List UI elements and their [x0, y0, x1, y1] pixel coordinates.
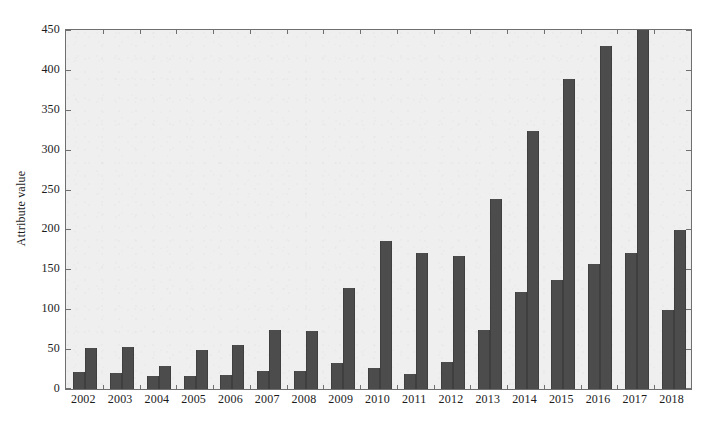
- y-axis-tick-label: 250: [30, 181, 60, 196]
- bar: [416, 253, 428, 389]
- x-axis-tick: [434, 385, 435, 389]
- bar: [232, 345, 244, 389]
- y-axis-tick-label: 100: [30, 301, 60, 316]
- x-axis-tick-label: 2007: [255, 392, 280, 407]
- bar: [625, 253, 637, 389]
- y-axis-tick-label: 50: [30, 341, 60, 356]
- y-axis-tick: [686, 30, 691, 31]
- y-axis-tick: [66, 269, 71, 270]
- x-axis-tick: [654, 385, 655, 389]
- x-axis-tick-label: 2004: [145, 392, 170, 407]
- x-axis-tick: [287, 30, 288, 34]
- bar: [85, 348, 97, 389]
- y-axis-tick-label: 450: [30, 22, 60, 37]
- bar: [441, 362, 453, 389]
- y-axis-tick: [66, 70, 71, 71]
- y-axis-tick: [66, 349, 71, 350]
- x-axis-tick-label: 2015: [549, 392, 574, 407]
- x-axis-tick-label: 2006: [218, 392, 243, 407]
- bar-chart-figure: Attribute value 050100150200250300350400…: [0, 0, 713, 427]
- y-axis-tick-label: 400: [30, 61, 60, 76]
- x-axis-tick: [103, 385, 104, 389]
- bar: [588, 264, 600, 389]
- bar: [306, 331, 318, 389]
- x-axis-tick: [213, 30, 214, 34]
- y-axis-tick: [66, 110, 71, 111]
- x-axis-tick: [507, 385, 508, 389]
- x-axis-tick: [617, 385, 618, 389]
- x-axis-tick-label: 2017: [622, 392, 647, 407]
- bar: [343, 288, 355, 389]
- x-axis-tick: [507, 30, 508, 34]
- y-axis-tick-labels: 050100150200250300350400450: [28, 0, 60, 427]
- bar: [122, 347, 134, 389]
- x-axis-tick: [360, 30, 361, 34]
- x-axis-tick: [434, 30, 435, 34]
- y-axis-tick: [686, 190, 691, 191]
- y-axis-tick: [66, 309, 71, 310]
- bar: [159, 366, 171, 389]
- y-axis-tick-label: 350: [30, 101, 60, 116]
- bar: [331, 363, 343, 389]
- y-axis-tick: [686, 269, 691, 270]
- x-axis-tick: [581, 385, 582, 389]
- x-axis-tick-label: 2016: [586, 392, 611, 407]
- bar: [196, 350, 208, 389]
- bar: [110, 373, 122, 389]
- x-axis-tick: [140, 385, 141, 389]
- x-axis-tick: [140, 30, 141, 34]
- bar: [73, 372, 85, 389]
- y-axis-tick-label: 200: [30, 221, 60, 236]
- bar: [637, 30, 649, 389]
- y-axis-tick: [686, 349, 691, 350]
- bar: [294, 371, 306, 389]
- x-axis-tick: [250, 385, 251, 389]
- x-axis-tick: [470, 30, 471, 34]
- y-axis-tick-label: 300: [30, 141, 60, 156]
- bar: [478, 330, 490, 389]
- x-axis-tick: [654, 30, 655, 34]
- bar: [368, 368, 380, 389]
- y-axis-tick: [686, 388, 691, 389]
- y-axis-tick: [66, 150, 71, 151]
- bar: [380, 241, 392, 389]
- x-axis-tick: [250, 30, 251, 34]
- bar: [453, 256, 465, 389]
- x-axis-tick: [176, 30, 177, 34]
- y-axis-tick: [686, 70, 691, 71]
- bar: [674, 230, 686, 389]
- x-axis-tick: [360, 385, 361, 389]
- bar: [515, 292, 527, 389]
- bar: [404, 374, 416, 389]
- x-axis-tick-label: 2014: [512, 392, 537, 407]
- x-axis-tick: [470, 385, 471, 389]
- x-axis-tick-label: 2005: [181, 392, 206, 407]
- y-axis-tick: [66, 388, 71, 389]
- y-axis-tick: [686, 110, 691, 111]
- x-axis-tick-label: 2010: [365, 392, 390, 407]
- bar: [662, 310, 674, 389]
- x-axis-tick: [103, 30, 104, 34]
- y-axis-tick: [686, 309, 691, 310]
- bar: [600, 46, 612, 389]
- x-axis-tick: [544, 30, 545, 34]
- x-axis-tick: [323, 30, 324, 34]
- plot-area: [65, 29, 692, 390]
- y-axis-tick: [66, 30, 71, 31]
- y-axis-tick-label: 150: [30, 261, 60, 276]
- y-axis-tick: [66, 229, 71, 230]
- x-axis-tick: [544, 385, 545, 389]
- x-axis-tick: [323, 385, 324, 389]
- x-axis-tick: [397, 385, 398, 389]
- bar: [220, 375, 232, 389]
- x-axis-tick-label: 2013: [475, 392, 500, 407]
- bar: [147, 376, 159, 389]
- x-axis-tick: [397, 30, 398, 34]
- bar: [563, 79, 575, 389]
- x-axis-tick-label: 2009: [328, 392, 353, 407]
- y-axis-tick: [66, 190, 71, 191]
- bar: [527, 131, 539, 389]
- x-axis-tick-label: 2018: [659, 392, 684, 407]
- bar: [490, 199, 502, 389]
- bar: [551, 280, 563, 389]
